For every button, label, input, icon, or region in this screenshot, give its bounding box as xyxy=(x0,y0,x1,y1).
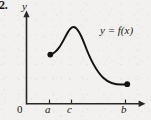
x-tick-label-b: b xyxy=(121,104,127,115)
y-axis-label: y xyxy=(22,1,27,12)
y-axis xyxy=(23,11,29,105)
origin-label: 0 xyxy=(17,104,23,115)
function-equation-label: y = f(x) xyxy=(100,25,133,36)
x-tick-label-a: a xyxy=(45,104,51,115)
problem-number: 2. xyxy=(0,0,7,11)
curve-endpoint-left xyxy=(47,52,53,58)
curve-endpoint-right xyxy=(124,81,130,87)
graph-canvas xyxy=(0,0,151,120)
x-tick-label-c: c xyxy=(67,104,72,115)
figure-panel: 2. y 0 a c b y = f(x) xyxy=(0,0,151,120)
x-axis-arrow-icon xyxy=(139,101,146,107)
